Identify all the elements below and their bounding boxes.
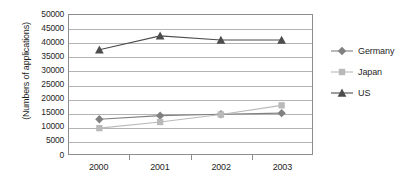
series-line — [99, 105, 281, 128]
square-marker-icon — [330, 66, 354, 78]
series-line — [99, 36, 281, 50]
y-tick-label: 45000 — [30, 24, 64, 33]
y-tick-label: 25000 — [30, 80, 64, 89]
legend-item-japan[interactable]: Japan — [330, 61, 416, 82]
x-tick-label: 2000 — [74, 162, 124, 172]
data-point — [156, 111, 164, 119]
chart-legend: GermanyJapanUS — [330, 40, 416, 103]
x-tick-label: 2002 — [196, 162, 246, 172]
diamond-marker-icon — [330, 45, 354, 57]
data-point — [218, 111, 224, 117]
triangle-marker-icon — [330, 87, 354, 99]
legend-item-germany[interactable]: Germany — [330, 40, 416, 61]
legend-label: US — [354, 88, 370, 98]
data-point — [278, 102, 284, 108]
data-point — [95, 115, 103, 123]
series-us — [95, 32, 286, 54]
data-point — [157, 119, 163, 125]
x-tick-mark — [129, 155, 130, 160]
plot-area — [68, 14, 313, 155]
series-layer — [69, 15, 312, 154]
x-tick-mark — [191, 155, 192, 160]
legend-label: Japan — [354, 67, 382, 77]
y-axis-tick-labels: 0500010000150002000025000300003500040000… — [30, 14, 64, 155]
data-point — [277, 109, 285, 117]
y-tick-label: 15000 — [30, 108, 64, 117]
y-tick-label: 20000 — [30, 94, 64, 103]
series-germany — [95, 109, 286, 123]
x-axis-tick-labels: 2000200120022003 — [68, 162, 313, 176]
series-japan — [96, 102, 285, 131]
line-chart: (Numbers of applications) 05000100001500… — [0, 0, 417, 183]
x-tick-mark — [252, 155, 253, 160]
y-tick-label: 50000 — [30, 10, 64, 19]
legend-item-us[interactable]: US — [330, 82, 416, 103]
y-tick-label: 5000 — [30, 136, 64, 145]
y-tick-label: 40000 — [30, 38, 64, 47]
y-tick-label: 30000 — [30, 66, 64, 75]
y-tick-label: 35000 — [30, 52, 64, 61]
x-tick-label: 2003 — [257, 162, 307, 172]
legend-label: Germany — [354, 46, 394, 56]
data-point — [96, 125, 102, 131]
y-tick-label: 0 — [30, 151, 64, 160]
x-tick-label: 2001 — [135, 162, 185, 172]
y-tick-label: 10000 — [30, 122, 64, 131]
